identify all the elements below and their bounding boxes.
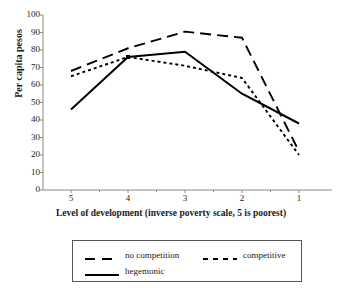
y-axis-tick-label: 70 bbox=[14, 63, 40, 72]
x-axis-tick-label: 2 bbox=[230, 193, 254, 204]
legend-label: competitive bbox=[243, 250, 286, 260]
x-axis-tick-label: 4 bbox=[116, 193, 140, 204]
y-axis-tick-label: 80 bbox=[14, 45, 40, 54]
series-line-hegemonic bbox=[71, 52, 299, 124]
legend-swatch-long-dash bbox=[85, 250, 119, 260]
series-lines bbox=[71, 32, 299, 155]
legend-swatch-short-dash bbox=[203, 250, 237, 260]
y-axis-tick-label: 50 bbox=[14, 98, 40, 107]
y-axis-tick-label: 100 bbox=[14, 10, 40, 19]
y-axis-tick-labels: 1009080706050403020100 bbox=[12, 0, 40, 291]
legend-swatch-solid bbox=[85, 266, 119, 276]
series-line-no-competition bbox=[71, 32, 299, 152]
x-axis-title: Level of development (inverse poverty sc… bbox=[0, 208, 342, 218]
legend-item-competitive: competitive bbox=[203, 247, 286, 263]
chart-legend: no competitioncompetitivehegemonic bbox=[72, 240, 302, 282]
y-axis-tick-label: 60 bbox=[14, 80, 40, 89]
legend-item-hegemonic: hegemonic bbox=[85, 263, 165, 279]
x-axis-tick-label: 3 bbox=[173, 193, 197, 204]
x-axis-tick-labels: 54321 bbox=[0, 193, 342, 207]
x-axis-tick-label: 5 bbox=[59, 193, 83, 204]
legend-item-no-competition: no competition bbox=[85, 247, 179, 263]
legend-label: hegemonic bbox=[125, 266, 165, 276]
x-axis-tick-label: 1 bbox=[287, 193, 311, 204]
y-axis-tick-label: 40 bbox=[14, 115, 40, 124]
chart-figure: Per capita pesos 1009080706050403020100 … bbox=[0, 0, 342, 291]
y-axis-tick-label: 30 bbox=[14, 133, 40, 142]
data-point-marker bbox=[126, 55, 130, 59]
y-axis-tick-label: 20 bbox=[14, 150, 40, 159]
y-axis-tick-label: 90 bbox=[14, 28, 40, 37]
legend-label: no competition bbox=[125, 250, 179, 260]
y-axis-tick-label: 10 bbox=[14, 168, 40, 177]
